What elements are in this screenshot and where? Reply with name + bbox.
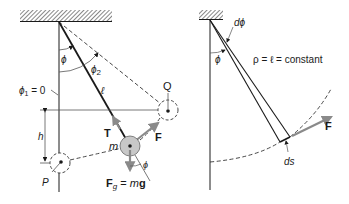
label-P: P xyxy=(42,177,49,188)
label-T: T xyxy=(104,127,111,139)
label-h: h xyxy=(38,131,44,142)
right-panel: dϕ ϕ ρ = ℓ = constant ds F xyxy=(199,10,332,190)
phi1-leader xyxy=(51,90,58,95)
radius-line-phi-plus-dphi xyxy=(210,20,290,137)
label-phi-right: ϕ xyxy=(215,54,221,65)
pendulum-diagram: ϕ ϕ2 ϕ1 = 0 ℓ Q h P T m F ϕ Fg = mg xyxy=(0,0,349,204)
label-Fg-eq-mg: Fg = mg xyxy=(106,177,146,191)
label-m: m xyxy=(109,140,118,152)
angle-arc-phi-right xyxy=(210,50,225,53)
angle-arc-phi xyxy=(59,46,73,50)
label-F: F xyxy=(155,131,162,143)
ceiling-support-right xyxy=(199,10,223,19)
swing-arc xyxy=(70,118,160,160)
label-phi1-zero: ϕ1 = 0 xyxy=(19,85,46,97)
label-phi-bob: ϕ xyxy=(143,160,148,170)
label-phi: ϕ xyxy=(61,54,67,65)
dphi-leader xyxy=(227,27,233,42)
ceiling-support xyxy=(20,10,112,21)
label-phi2: ϕ2 xyxy=(91,64,102,77)
angle-arc-phi-bob xyxy=(130,164,141,166)
dashed-line-to-Q xyxy=(59,22,161,104)
label-ell: ℓ xyxy=(100,85,105,96)
position-Q-dot xyxy=(166,109,170,113)
label-dphi: dϕ xyxy=(234,17,246,28)
left-panel: ϕ ϕ2 ϕ1 = 0 ℓ Q h P T m F ϕ Fg = mg xyxy=(19,10,178,192)
pendulum-bob-center xyxy=(128,144,132,148)
radius-line-phi xyxy=(210,20,280,142)
label-ds: ds xyxy=(284,156,295,167)
label-rho-eq: ρ = ℓ = constant xyxy=(253,54,323,65)
tension-arrow xyxy=(113,117,120,129)
arc-element-ds xyxy=(280,137,290,142)
ds-leader xyxy=(286,141,288,152)
label-Q: Q xyxy=(163,80,172,92)
label-F-right: F xyxy=(325,120,332,132)
